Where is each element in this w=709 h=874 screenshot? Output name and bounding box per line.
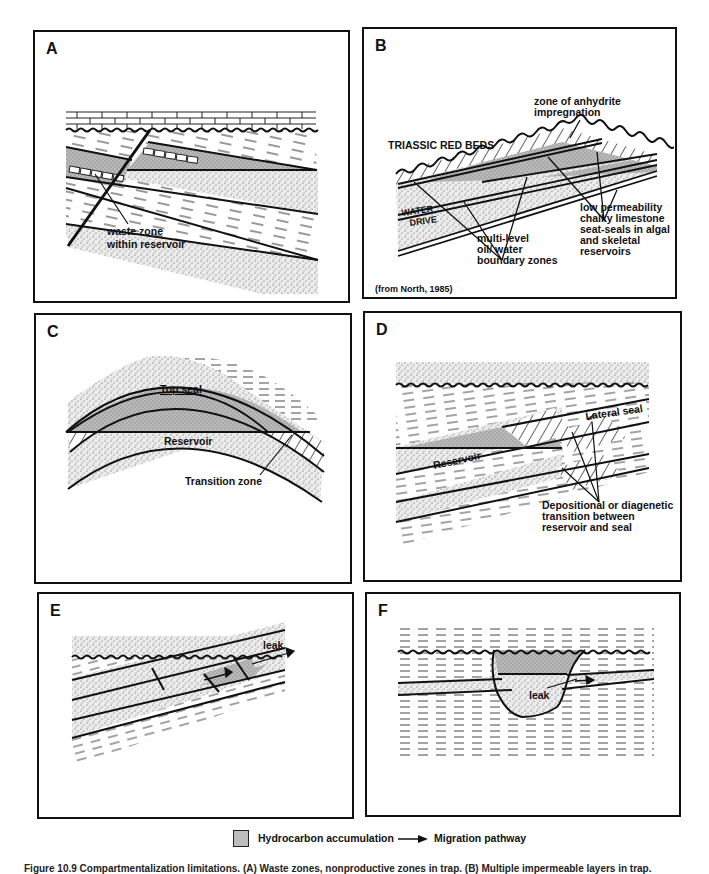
source-citation: (from North, 1985) xyxy=(375,284,453,294)
label-triassic-red-beds: TRIASSIC RED BEDS xyxy=(388,139,494,151)
panel-d: D Lateral xyxy=(363,311,682,582)
label-top-seal: Top seal xyxy=(160,383,202,395)
diagram-e: leak xyxy=(39,594,351,816)
label-reservoir: Reservoir xyxy=(164,435,212,447)
panel-f: F leak xyxy=(365,592,681,817)
label-leak: leak xyxy=(529,689,550,701)
label-boundary-zones: boundary zones xyxy=(477,254,558,266)
diagram-d: Lateral seal Reservoir Depositional or d… xyxy=(365,313,679,579)
diagram-f: leak xyxy=(367,594,678,814)
label-waste-zone: waste zone xyxy=(106,225,163,237)
label-impregnation: impregnation xyxy=(534,106,601,118)
label-leak: leak xyxy=(263,639,284,651)
diagram-a: waste zone within reservoir xyxy=(35,32,347,300)
arrow-icon xyxy=(398,835,428,843)
legend-migration-label: Migration pathway xyxy=(434,832,526,844)
diagram-b: zone of anhydrite impregnation TRIASSIC … xyxy=(364,29,674,296)
label-reservoirs: reservoirs xyxy=(580,245,631,257)
panel-e: E leak xyxy=(37,592,354,819)
panel-b: B zone of anhydrite impregnati xyxy=(362,27,677,299)
diagram-c: Top seal Reservoir Transition zone xyxy=(36,315,349,581)
label-within-reservoir: within reservoir xyxy=(106,238,185,250)
legend-hydrocarbon-label: Hydrocarbon accumulation xyxy=(258,832,394,844)
label-transition-zone: Transition zone xyxy=(185,475,262,487)
hydrocarbon-swatch-icon xyxy=(233,830,249,847)
panel-a: A xyxy=(33,30,350,303)
legend: Hydrocarbon accumulation Migration pathw… xyxy=(0,828,709,850)
panel-c: C Top seal Reservoir Transition zone xyxy=(34,313,352,584)
figure-caption: Figure 10.9 Compartmentalization limitat… xyxy=(24,863,652,874)
label-reservoir-and-seal: reservoir and seal xyxy=(542,521,632,533)
